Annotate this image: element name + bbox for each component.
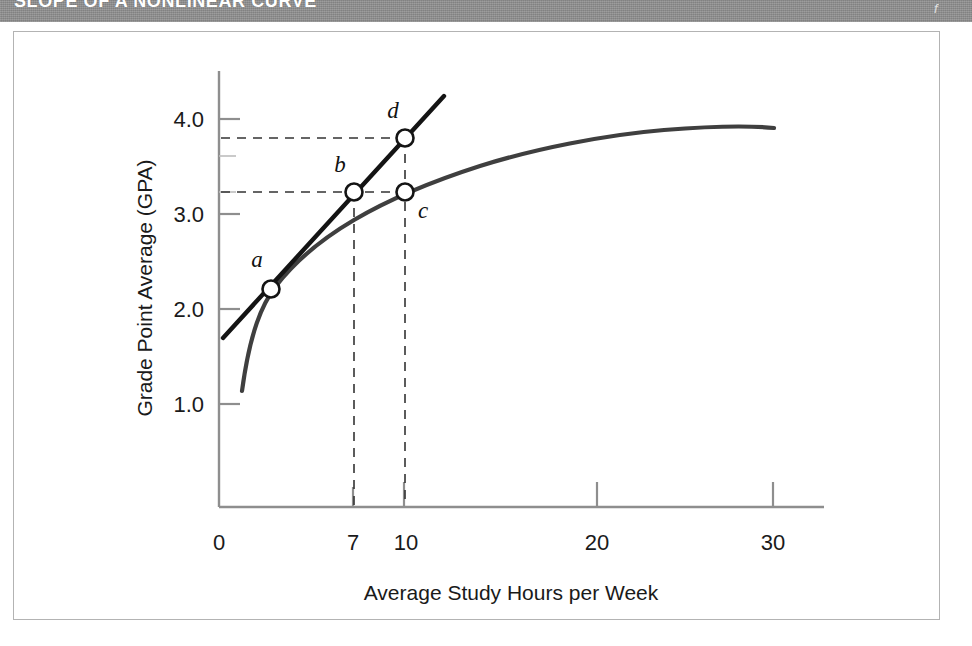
point-c bbox=[397, 184, 414, 201]
point-label-a: a bbox=[251, 247, 263, 272]
point-label-d: d bbox=[387, 98, 399, 123]
x-tick-label-20: 20 bbox=[585, 530, 609, 555]
point-label-c: c bbox=[418, 198, 428, 223]
y-axis-title: Grade Point Average (GPA) bbox=[133, 159, 156, 416]
section-banner: SLOPE OF A NONLINEAR CURVE f bbox=[0, 0, 972, 22]
point-a bbox=[263, 281, 280, 298]
y-tick-label-4: 4.0 bbox=[173, 107, 204, 132]
y-tick-label-3: 3.0 bbox=[173, 202, 204, 227]
banner-title: SLOPE OF A NONLINEAR CURVE bbox=[14, 0, 317, 12]
point-d bbox=[397, 130, 414, 147]
y-tick-label-2: 2.0 bbox=[173, 297, 204, 322]
nonlinear-curve bbox=[242, 127, 774, 391]
chart-canvas: 4.0 3.0 2.0 1.0 0 7 10 20 30 Average Stu… bbox=[14, 32, 939, 619]
y-tick-label-1: 1.0 bbox=[173, 392, 204, 417]
banner-corner-mark: f bbox=[934, 1, 948, 19]
point-b bbox=[346, 184, 363, 201]
x-axis-ticks bbox=[353, 482, 773, 507]
y-axis-minor-ticks bbox=[219, 156, 236, 192]
x-tick-label-0: 0 bbox=[213, 530, 225, 555]
x-tick-label-30: 30 bbox=[761, 530, 785, 555]
figure-frame: 4.0 3.0 2.0 1.0 0 7 10 20 30 Average Stu… bbox=[13, 31, 940, 620]
point-label-b: b bbox=[334, 152, 346, 177]
x-axis-title: Average Study Hours per Week bbox=[364, 581, 659, 604]
x-tick-label-10: 10 bbox=[394, 530, 418, 555]
x-tick-label-7: 7 bbox=[347, 530, 359, 555]
y-axis-ticks bbox=[219, 119, 240, 404]
guide-lines bbox=[221, 138, 405, 506]
